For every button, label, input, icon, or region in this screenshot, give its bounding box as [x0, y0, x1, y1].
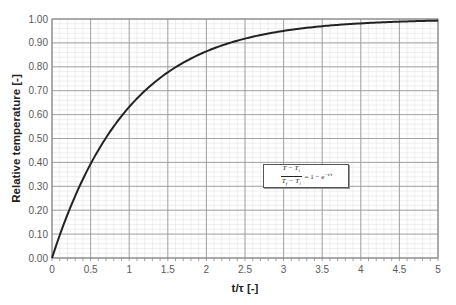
line-chart: 0.000.100.200.300.400.500.600.700.800.90…	[0, 0, 456, 305]
grid	[52, 19, 438, 261]
x-tick-label: 4.5	[392, 264, 406, 275]
y-tick-label: 0.60	[29, 109, 49, 120]
x-tick-label: 3.5	[315, 264, 329, 275]
x-tick-label: 3	[281, 264, 287, 275]
y-tick-label: 0.20	[29, 205, 49, 216]
y-tick-label: 0.70	[29, 85, 49, 96]
y-tick-label: 0.30	[29, 181, 49, 192]
y-tick-label: 0.90	[29, 37, 49, 48]
x-tick-label: 1	[126, 264, 132, 275]
y-tick-label: 0.10	[29, 229, 49, 240]
x-tick-label: 0	[49, 264, 55, 275]
x-tick-label: 2.5	[238, 264, 252, 275]
equation-rhs: = 1 − e−t/τ	[305, 171, 333, 181]
y-tick-label: 0.40	[29, 157, 49, 168]
y-axis-title: Relative temperature [-]	[10, 74, 22, 203]
x-tick-label: 2	[204, 264, 210, 275]
x-tick-label: 4	[358, 264, 364, 275]
x-tick-label: 5	[435, 264, 441, 275]
y-tick-label: 0.80	[29, 61, 49, 72]
equation-fraction: T − Ti Tf − Ti	[280, 164, 303, 188]
y-tick-label: 1.00	[29, 14, 49, 25]
x-axis-title: t/τ [-]	[232, 282, 259, 294]
y-tick-label: 0.00	[29, 253, 49, 264]
y-tick-label: 0.50	[29, 133, 49, 144]
equation-annotation: T − Ti Tf − Ti = 1 − e−t/τ	[263, 164, 349, 188]
x-tick-label: 0.5	[84, 264, 98, 275]
x-tick-label: 1.5	[161, 264, 175, 275]
